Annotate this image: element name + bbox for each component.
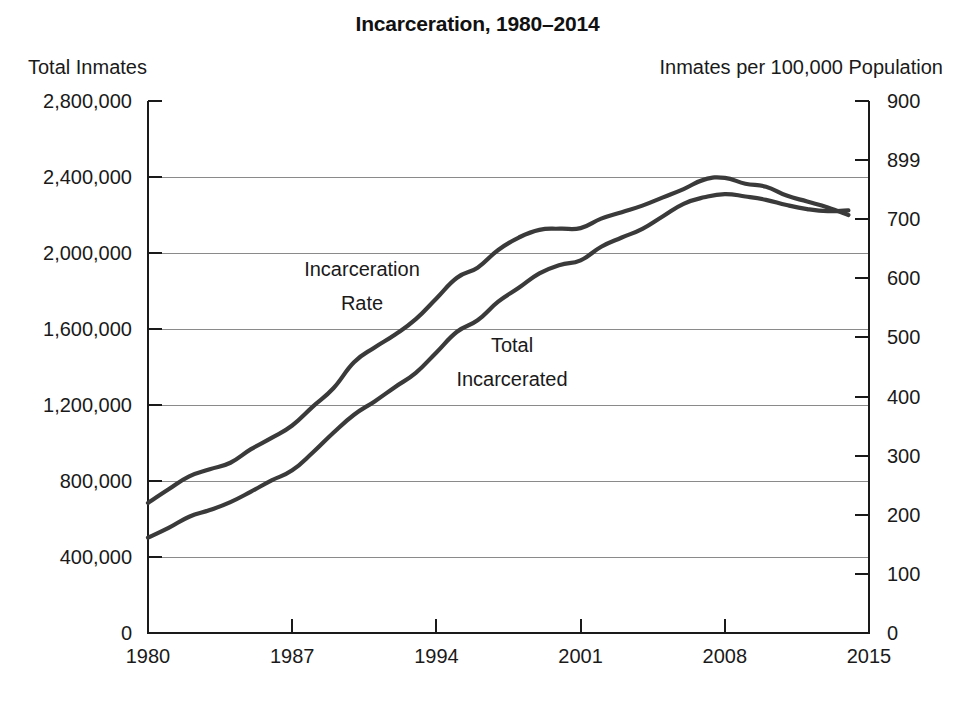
gridlines: [148, 177, 869, 557]
annotation-line-1: Incarceration: [304, 258, 420, 280]
left-tick-label: 1,600,000: [43, 318, 132, 340]
annotation-line-2: Incarcerated: [456, 368, 567, 390]
left-tick-label: 2,400,000: [43, 166, 132, 188]
x-axis-tick-labels: 198019871994200120082015: [126, 645, 892, 667]
left-tick-label: 1,200,000: [43, 394, 132, 416]
left-axis-ticks: [148, 101, 162, 557]
x-tick-label: 2008: [703, 645, 748, 667]
line-chart-plot: 0400,000800,0001,200,0001,600,0002,000,0…: [0, 0, 955, 706]
series-line-total-incarcerated: [148, 194, 848, 538]
right-tick-label: 300: [887, 445, 920, 467]
annotation-total-incarcerated: TotalIncarcerated: [456, 334, 567, 390]
right-tick-label: 0: [887, 622, 898, 644]
x-tick-label: 2015: [847, 645, 892, 667]
left-tick-label: 2,000,000: [43, 242, 132, 264]
data-series: [148, 177, 848, 537]
annotation-line-1: Total: [491, 334, 533, 356]
right-axis-ticks: [855, 160, 869, 574]
left-axis-tick-labels: 0400,000800,0001,200,0001,600,0002,000,0…: [43, 90, 132, 644]
left-tick-label: 800,000: [60, 470, 132, 492]
x-tick-label: 1994: [414, 645, 459, 667]
plot-frame: [148, 101, 869, 633]
axis-frame: [148, 101, 869, 633]
left-tick-label: 2,800,000: [43, 90, 132, 112]
right-tick-label: 500: [887, 326, 920, 348]
right-tick-label: 600: [887, 267, 920, 289]
annotation-line-2: Rate: [341, 292, 383, 314]
x-tick-label: 1987: [270, 645, 315, 667]
right-tick-label: 700: [887, 208, 920, 230]
annotation-incarceration-rate: IncarcerationRate: [304, 258, 420, 314]
left-tick-label: 400,000: [60, 546, 132, 568]
right-tick-label: 899: [887, 149, 920, 171]
left-tick-label: 0: [121, 622, 132, 644]
right-tick-label: 100: [887, 563, 920, 585]
series-annotations: IncarcerationRateTotalIncarcerated: [304, 258, 567, 390]
chart-figure: Incarceration, 1980–2014 Total Inmates I…: [0, 0, 955, 706]
right-tick-label: 900: [887, 90, 920, 112]
x-axis-ticks: [292, 619, 725, 633]
right-axis-tick-labels: 0100200300400500600700899900: [887, 90, 920, 644]
right-tick-label: 400: [887, 386, 920, 408]
x-tick-label: 1980: [126, 645, 171, 667]
x-tick-label: 2001: [558, 645, 603, 667]
right-tick-label: 200: [887, 504, 920, 526]
